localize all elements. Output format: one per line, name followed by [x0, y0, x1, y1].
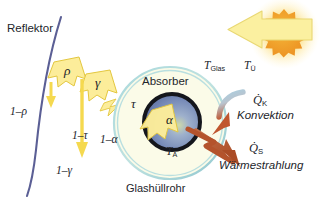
figure-canvas: Reflektor ρ γ τ α 1–ρ 1–τ 1–γ 1–α Absorb…	[0, 0, 321, 217]
diagram-artwork	[0, 0, 321, 217]
reflector-curve	[27, 17, 61, 196]
ray-gamma-arrow	[80, 70, 117, 101]
loss-arrow-rho	[46, 82, 56, 108]
